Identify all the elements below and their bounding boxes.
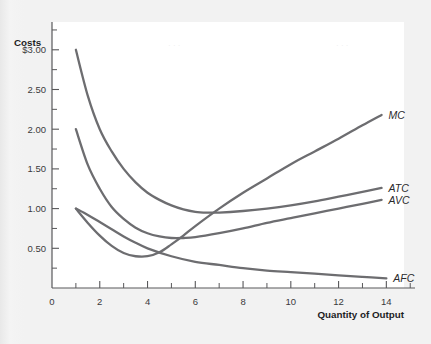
page-background: · · · · · · 0.501.001.502.002.50$3.00 02… xyxy=(0,0,431,344)
y-tick-label: 2.00 xyxy=(28,124,47,135)
cost-curves-chart: · · · · · · 0.501.001.502.002.50$3.00 02… xyxy=(0,0,431,344)
x-tick-label: 14 xyxy=(381,296,392,307)
y-tick-label: 0.50 xyxy=(28,243,47,254)
x-tick-label: 2 xyxy=(97,296,102,307)
x-tick-label: 8 xyxy=(240,296,245,307)
watermark-artifact-left: · · · xyxy=(168,41,180,50)
y-tick-label: 1.50 xyxy=(28,163,47,174)
x-axis-title: Quantity of Output xyxy=(317,309,404,320)
x-tick-label: 0 xyxy=(49,296,54,307)
y-axis-tick-labels: 0.501.001.502.002.50$3.00 xyxy=(22,44,46,254)
x-tick-label: 4 xyxy=(145,296,150,307)
curve-label-avc: AVC xyxy=(388,194,410,206)
watermark-artifact-right: · · · xyxy=(336,41,348,50)
y-tick-label: 1.00 xyxy=(28,203,47,214)
curve-label-mc: MC xyxy=(389,109,406,121)
curve-label-atc: ATC xyxy=(388,182,410,194)
x-tick-label: 10 xyxy=(286,296,297,307)
y-tick-label: 2.50 xyxy=(28,84,47,95)
y-axis-title: Costs xyxy=(14,37,42,48)
curve-label-afc: AFC xyxy=(392,272,414,284)
x-tick-label: 12 xyxy=(333,296,344,307)
plot-area-background xyxy=(52,22,404,288)
x-tick-label: 6 xyxy=(193,296,198,307)
x-axis-tick-labels: 02468101214 xyxy=(49,296,391,307)
